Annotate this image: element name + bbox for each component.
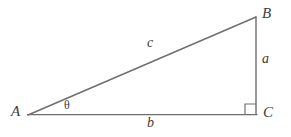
triangle-drawing — [0, 0, 291, 137]
hypotenuse-line-c — [28, 17, 256, 115]
side-label-a: a — [262, 52, 269, 66]
vertex-label-a: A — [11, 104, 20, 119]
right-angle-marker-icon — [245, 104, 256, 114]
side-label-c: c — [147, 36, 153, 50]
right-triangle-figure: A B C a b c θ — [0, 0, 291, 137]
vertex-label-c: C — [263, 105, 273, 120]
angle-label-theta: θ — [64, 99, 70, 111]
vertex-label-b: B — [262, 6, 271, 21]
side-label-b: b — [147, 116, 154, 130]
